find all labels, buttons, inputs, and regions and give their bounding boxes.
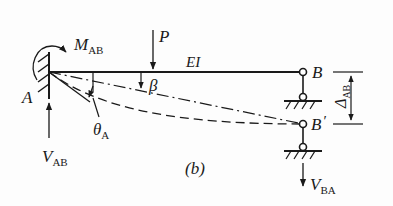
reaction-b-label: VBA [310, 175, 336, 196]
beam-diagram: MAB EI P β θA A VAB B [0, 0, 393, 206]
moment-label: MAB [73, 35, 103, 56]
reaction-a-label: VAB [42, 147, 68, 168]
node-b-prime-label: B′ [311, 113, 327, 134]
node-a-label: A [21, 88, 33, 107]
stiffness-label: EI [185, 54, 201, 70]
chord-line [49, 72, 303, 124]
theta-label: θA [93, 120, 109, 141]
displacement-label: ΔAB [332, 84, 352, 109]
node-b-label: B [312, 63, 323, 82]
fixed-support-a [38, 52, 49, 99]
load-label: P [158, 27, 169, 46]
figure-caption: (b) [185, 159, 205, 178]
theta-leader-2 [93, 98, 99, 117]
tangent-line [49, 72, 90, 102]
beta-label: β [148, 76, 158, 95]
